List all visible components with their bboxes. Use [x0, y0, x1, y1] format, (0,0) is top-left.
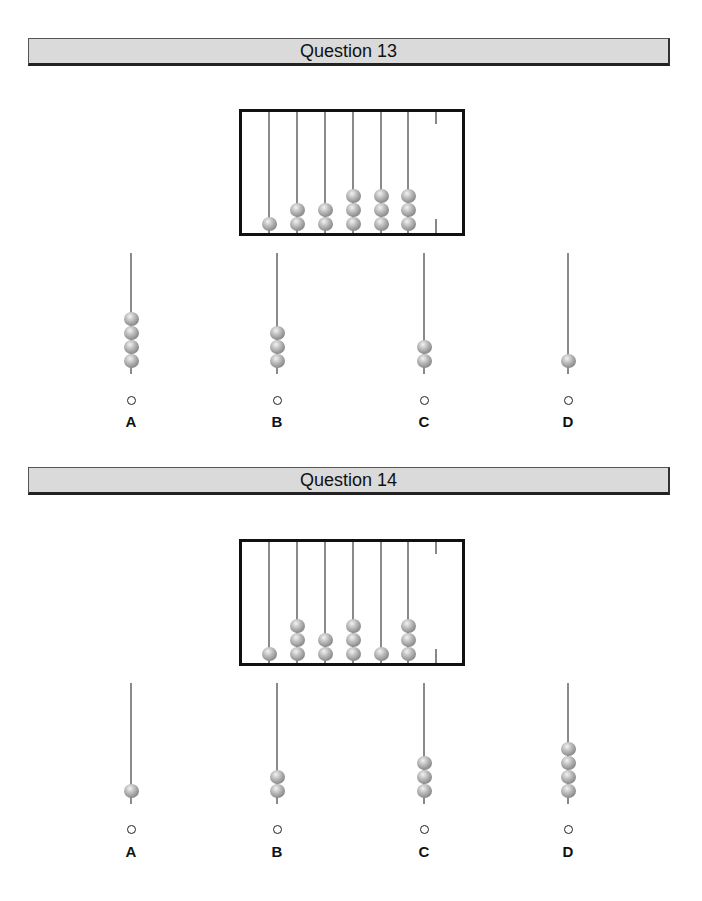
- place-marker: [435, 112, 437, 124]
- radio-button[interactable]: [127, 396, 136, 405]
- option-label: D: [558, 843, 578, 860]
- option-bead: [124, 784, 139, 798]
- abacus-bead: [346, 619, 361, 633]
- abacus-bead: [401, 619, 416, 633]
- abacus-bead: [290, 217, 305, 231]
- option-bead: [270, 326, 285, 340]
- option-bead: [417, 354, 432, 368]
- option-bead: [561, 770, 576, 784]
- place-marker: [435, 542, 437, 554]
- option-bead: [417, 784, 432, 798]
- abacus-bead: [290, 633, 305, 647]
- abacus-bead: [401, 203, 416, 217]
- option-bead: [270, 340, 285, 354]
- option-bead: [561, 784, 576, 798]
- option-bead: [417, 770, 432, 784]
- abacus-bead: [401, 217, 416, 231]
- abacus-bead: [346, 647, 361, 661]
- option-bead: [270, 354, 285, 368]
- option-bead: [124, 312, 139, 326]
- abacus-bead: [346, 189, 361, 203]
- option-bead: [417, 340, 432, 354]
- option-label: A: [121, 413, 141, 430]
- option-label: D: [558, 413, 578, 430]
- abacus-bead: [401, 633, 416, 647]
- abacus-bead: [318, 647, 333, 661]
- radio-button[interactable]: [420, 825, 429, 834]
- option-label: C: [414, 843, 434, 860]
- option-label: B: [267, 843, 287, 860]
- abacus-bead: [374, 217, 389, 231]
- option-label: A: [121, 843, 141, 860]
- abacus-figure: [239, 109, 465, 236]
- option-bead: [270, 784, 285, 798]
- radio-button[interactable]: [564, 396, 573, 405]
- abacus-bead: [262, 217, 277, 231]
- abacus-bead: [346, 203, 361, 217]
- radio-button[interactable]: [564, 825, 573, 834]
- abacus-bead: [401, 189, 416, 203]
- option-bead: [561, 354, 576, 368]
- abacus-bead: [374, 647, 389, 661]
- abacus-bead: [401, 647, 416, 661]
- abacus-bead: [346, 633, 361, 647]
- radio-button[interactable]: [273, 825, 282, 834]
- option-label: B: [267, 413, 287, 430]
- option-bead: [561, 742, 576, 756]
- abacus-bead: [290, 647, 305, 661]
- abacus-bead: [318, 203, 333, 217]
- abacus-bead: [374, 203, 389, 217]
- abacus-rod: [268, 542, 270, 663]
- question-header: Question 14: [28, 467, 670, 495]
- abacus-bead: [318, 217, 333, 231]
- question-header: Question 13: [28, 38, 670, 66]
- place-marker: [435, 219, 437, 233]
- radio-button[interactable]: [273, 396, 282, 405]
- option-bead: [561, 756, 576, 770]
- option-bead: [270, 770, 285, 784]
- abacus-figure: [239, 539, 465, 666]
- abacus-bead: [290, 619, 305, 633]
- abacus-bead: [262, 647, 277, 661]
- abacus-bead: [290, 203, 305, 217]
- option-bead: [124, 340, 139, 354]
- option-bead: [417, 756, 432, 770]
- option-label: C: [414, 413, 434, 430]
- abacus-rod: [380, 542, 382, 663]
- radio-button[interactable]: [420, 396, 429, 405]
- abacus-bead: [374, 189, 389, 203]
- option-bead: [124, 354, 139, 368]
- abacus-bead: [346, 217, 361, 231]
- radio-button[interactable]: [127, 825, 136, 834]
- abacus-rod: [268, 112, 270, 233]
- place-marker: [435, 649, 437, 663]
- option-bead: [124, 326, 139, 340]
- abacus-bead: [318, 633, 333, 647]
